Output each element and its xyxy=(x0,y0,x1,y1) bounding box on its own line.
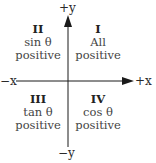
neg-y-label: −y xyxy=(58,147,75,159)
quadrant-iii: III tan θ positive xyxy=(8,93,68,132)
quadrant-sign: positive xyxy=(8,49,68,62)
pos-y-label: +y xyxy=(59,2,76,14)
neg-x-label: −x xyxy=(0,75,17,87)
quadrant-sign: positive xyxy=(68,119,128,132)
quadrant-i: I All positive xyxy=(68,23,128,62)
x-axis-arrowhead xyxy=(122,77,134,85)
quadrant-sign: positive xyxy=(68,49,128,62)
quadrant-iv: IV cos θ positive xyxy=(68,93,128,132)
quadrant-ii: II sin θ positive xyxy=(8,23,68,62)
pos-x-label: +x xyxy=(135,75,152,87)
quadrant-sign: positive xyxy=(8,119,68,132)
